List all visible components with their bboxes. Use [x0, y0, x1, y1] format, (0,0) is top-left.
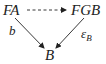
label-epsilon-subscript: B	[86, 33, 92, 43]
node-b: B	[45, 48, 54, 63]
commutative-diagram: FA FGB B b εB	[0, 0, 106, 64]
node-fgb: FGB	[71, 3, 100, 18]
arrow-fgb-to-b	[56, 18, 84, 48]
label-epsilon-b: εB	[81, 27, 92, 42]
node-fa: FA	[3, 3, 19, 18]
arrow-fa-to-b	[15, 18, 44, 48]
label-b: b	[9, 24, 16, 37]
